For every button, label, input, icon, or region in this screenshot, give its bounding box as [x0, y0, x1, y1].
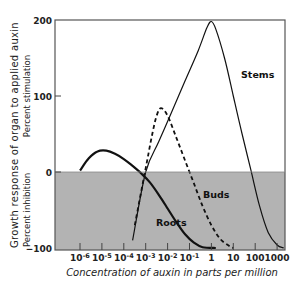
- x-tick-label: 10-5: [92, 252, 112, 264]
- y-tick-label: 100: [33, 92, 52, 102]
- x-tick-label: 10-4: [114, 252, 134, 264]
- y-axis-title: Growth response of organ to applied auxi…: [9, 22, 20, 248]
- y-tick-label: 0: [46, 168, 52, 178]
- x-tick-label: 10-1: [180, 252, 200, 264]
- label-buds: Buds: [203, 189, 230, 200]
- x-axis-title: Concentration of auxin in parts per mill…: [66, 267, 278, 278]
- label-roots: Roots: [156, 217, 187, 228]
- x-tick-label: 10: [227, 253, 240, 263]
- x-tick-label: 1: [208, 253, 214, 263]
- x-tick-label: 100: [246, 253, 265, 263]
- label-stems: Stems: [241, 69, 275, 80]
- x-tick-label: 10-3: [136, 252, 156, 264]
- y-axis-upper-label: Percent stimulation: [22, 55, 32, 137]
- auxin-response-chart: 2001000−100 10-610-510-410-310-210-11101…: [0, 0, 301, 291]
- x-tick-label: 10-2: [158, 252, 178, 264]
- y-axis-lower-label: Percent inhibition: [22, 173, 32, 247]
- x-tick-label: 1000: [265, 253, 290, 263]
- x-tick-label: 10-6: [70, 252, 90, 264]
- y-tick-label: 200: [33, 16, 52, 26]
